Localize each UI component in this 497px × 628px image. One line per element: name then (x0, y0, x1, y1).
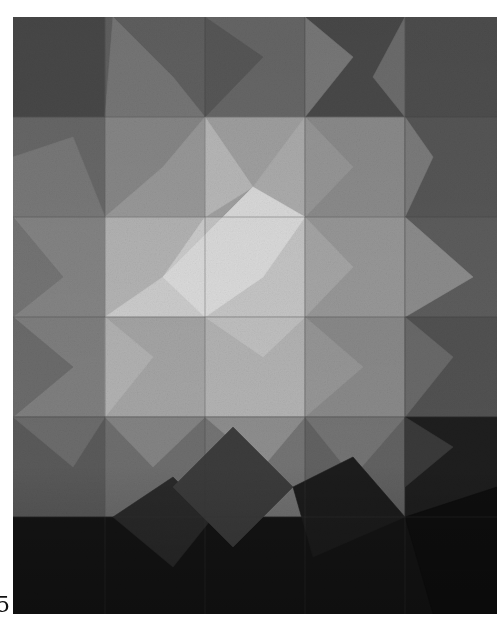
quilt-photograph (13, 17, 497, 614)
quilt-patches (13, 17, 497, 614)
page-number-fragment: 5 (0, 594, 10, 616)
photo-vignette (13, 17, 497, 614)
